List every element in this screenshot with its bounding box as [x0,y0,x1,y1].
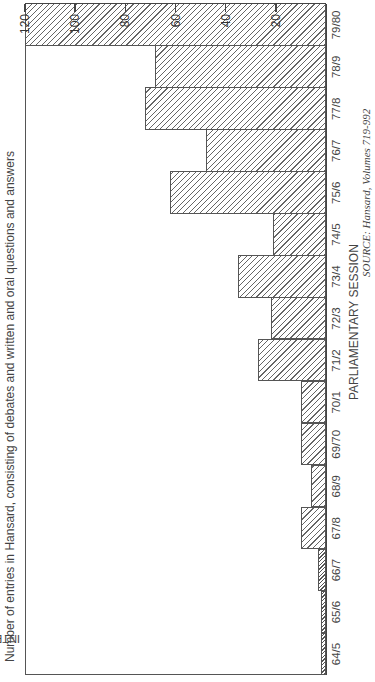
y-tick [175,4,177,12]
y-tick-label: 40 [219,14,233,42]
y-tick-label: 100 [68,14,82,42]
x-tick-label: 75/6 [330,172,342,214]
x-tick-label: 79/80 [330,4,342,46]
bar-76-7 [206,129,326,171]
bar-67-8 [301,507,326,549]
x-tick-label: 69/70 [330,423,342,465]
y-tick [275,4,277,12]
x-tick-label: 66/7 [330,549,342,591]
y-tick-label: 120 [18,14,32,42]
chart-title: Number of entries in Hansard, consisting… [3,151,17,662]
bar-70-1 [301,381,326,423]
bar-78-9 [155,45,326,87]
x-tick-label: 64/5 [330,633,342,675]
y-axis-label-wrap: INTEREST INDEX: NUMBER OF ENTRIES IN HAN… [0,633,20,645]
bar-68-9 [311,465,326,507]
y-tick-label: 80 [118,14,132,42]
x-tick-label: 71/2 [330,340,342,382]
source-note: SOURCE: Hansard, Volumes 719-992 [360,109,372,277]
rotated-chart-frame: Number of entries in Hansard, consisting… [0,0,375,682]
bar-74-5 [273,213,326,255]
x-tick-label: 67/8 [330,507,342,549]
x-tick-label: 74/5 [330,214,342,256]
x-tick-label: 65/6 [330,591,342,633]
x-tick-label: 68/9 [330,465,342,507]
y-tick [74,4,76,12]
bar-69-70 [301,423,326,465]
y-tick [24,4,26,12]
bar-72-3 [271,297,326,339]
y-axis-label: INTEREST INDEX: NUMBER OF ENTRIES IN HAN… [0,633,20,645]
x-axis-label: PARLIAMENTARY SESSION [347,244,361,400]
x-tick-label: 70/1 [330,381,342,423]
y-tick [125,4,127,12]
bar-73-4 [238,255,326,297]
x-tick-label: 77/8 [330,88,342,130]
x-axis-line [326,4,327,675]
x-tick-label: 72/3 [330,298,342,340]
bar-77-8 [145,87,326,129]
plot-area [25,4,326,675]
x-tick-label: 76/7 [330,130,342,172]
y-tick-label: 60 [169,14,183,42]
bar-75-6 [170,171,326,213]
x-tick-label: 78/9 [330,46,342,88]
bar-66-7 [318,549,326,591]
y-tick-label: 20 [269,14,283,42]
y-tick [225,4,227,12]
bar-71-2 [258,339,326,381]
x-tick-label: 73/4 [330,256,342,298]
